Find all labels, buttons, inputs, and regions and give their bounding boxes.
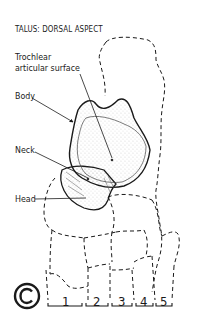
metatarsal-number-2: 2 <box>93 294 100 309</box>
talus-illustration <box>0 0 198 322</box>
talus-bone <box>61 99 150 210</box>
metatarsal-number-3: 3 <box>118 294 125 309</box>
talus-body <box>70 99 151 187</box>
dashed-foot-bones <box>44 178 179 300</box>
leader-body <box>32 98 73 122</box>
metatarsal-number-1: 1 <box>62 294 69 309</box>
metatarsal-number-4: 4 <box>140 294 147 309</box>
metatarsal-number-5: 5 <box>160 294 167 309</box>
copyright-icon <box>13 282 41 310</box>
